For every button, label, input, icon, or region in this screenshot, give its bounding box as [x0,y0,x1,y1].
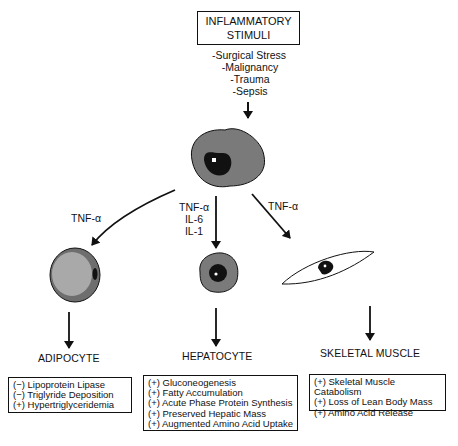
stimulus-item: -Surgical Stress [188,49,310,61]
adipocyte-cell-icon [50,248,100,302]
skeletal-muscle-cell-icon [282,251,374,284]
effect-item: (+) Skeletal Muscle Catabolism [314,377,441,397]
effect-item: (+) Hypertriglyceridemia [13,400,127,410]
mediator-label-center: TNF-α IL-6 IL-1 [178,201,210,237]
inflammatory-stimuli-box: INFLAMMATORY STIMULI [197,11,300,45]
stimulus-item: -Trauma [190,73,310,85]
mediator-label-right: TNF-α [268,200,298,212]
effect-item: (+) Amino Acid Release [314,408,441,418]
skeletal-muscle-label: SKELETAL MUSCLE [320,347,420,359]
skeletal-muscle-effects-box: (+) Skeletal Muscle Catabolism (+) Loss … [309,374,446,411]
stimulus-item: -Malignancy [190,61,310,73]
adipocyte-effects-box: (−) Lipoprotein Lipase (−) Triglyride De… [8,377,132,413]
mediator-il6: IL-6 [178,213,210,225]
stimulus-item: -Sepsis [190,85,310,97]
hepatocyte-cell-icon [200,253,238,292]
title-line1: INFLAMMATORY [198,14,299,28]
stimuli-list: -Surgical Stress -Malignancy -Trauma -Se… [190,49,310,97]
hepatocyte-effects-box: (+) Gluconeogenesis (+) Fatty Accumulati… [143,375,298,431]
mediator-tnf: TNF-α [178,201,210,213]
effect-item: (+) Augmented Amino Acid Uptake [148,419,293,429]
title-line2: STIMULI [198,28,299,42]
mediator-label-left: TNF-α [71,212,101,224]
hepatocyte-label: HEPATOCYTE [182,350,252,362]
arrow-to-adipocyte [92,190,175,245]
macrophage-cell-icon [191,129,264,187]
mediator-il1: IL-1 [178,225,210,237]
adipocyte-label: ADIPOCYTE [38,352,100,364]
